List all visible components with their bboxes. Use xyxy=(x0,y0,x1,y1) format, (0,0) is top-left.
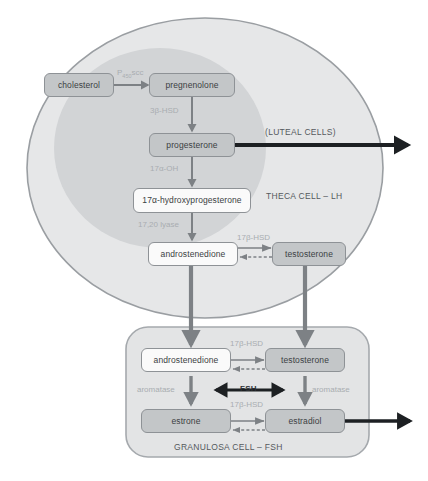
node-cholesterol-label: cholesterol xyxy=(58,81,100,90)
enzyme-label-17b-hsd-theca: 17β-HSD xyxy=(237,234,270,242)
diagram-canvas: cholesterol pregnenolone progesterone 17… xyxy=(0,0,428,481)
fsh-label: FSH xyxy=(240,385,257,393)
node-progesterone-label: progesterone xyxy=(166,141,217,150)
node-estrone[interactable]: estrone xyxy=(141,409,231,433)
enzyme-p450scc-tail: scc xyxy=(132,68,144,77)
enzyme-label-aromatase-right: aromatase xyxy=(312,386,350,394)
node-estradiol[interactable]: estradiol xyxy=(265,409,345,433)
node-testosterone-granulosa-label: testosterone xyxy=(281,356,329,365)
node-testosterone-granulosa[interactable]: testosterone xyxy=(265,348,345,372)
node-pregnenolone[interactable]: pregnenolone xyxy=(149,73,235,97)
node-cholesterol[interactable]: cholesterol xyxy=(44,73,114,97)
enzyme-label-17-20-lyase: 17,20 lyase xyxy=(138,221,179,229)
node-estrone-label: estrone xyxy=(171,417,200,426)
luteal-cells-label: (LUTEAL CELLS) xyxy=(265,128,336,137)
enzyme-label-3b-hsd: 3β-HSD xyxy=(150,107,179,115)
node-progesterone[interactable]: progesterone xyxy=(149,133,235,157)
node-androstenedione-granulosa[interactable]: androstenedione xyxy=(141,348,231,372)
node-androstenedione-theca[interactable]: androstenedione xyxy=(148,242,238,266)
node-hydroxyprogesterone-label: 17α-hydroxyprogesterone xyxy=(142,196,241,205)
enzyme-label-17b-hsd-granulosa-top: 17β-HSD xyxy=(230,340,263,348)
node-androstenedione-theca-label: androstenedione xyxy=(161,250,226,259)
enzyme-p450scc-sub: 450 xyxy=(122,73,131,79)
node-hydroxyprogesterone[interactable]: 17α-hydroxyprogesterone xyxy=(133,188,251,213)
node-testosterone-theca[interactable]: testosterone xyxy=(272,242,346,266)
enzyme-label-17b-hsd-granulosa-bottom: 17β-HSD xyxy=(230,401,263,409)
node-pregnenolone-label: pregnenolone xyxy=(165,81,218,90)
node-testosterone-theca-label: testosterone xyxy=(285,250,333,259)
enzyme-label-p450scc: P450scc xyxy=(117,69,144,79)
theca-cell-label: THECA CELL – LH xyxy=(266,192,342,201)
node-estradiol-label: estradiol xyxy=(288,417,321,426)
enzyme-label-aromatase-left: aromatase xyxy=(137,386,175,394)
node-androstenedione-granulosa-label: androstenedione xyxy=(154,356,219,365)
granulosa-cell-label: GRANULOSA CELL – FSH xyxy=(174,443,283,452)
enzyme-label-17a-oh: 17α-OH xyxy=(150,165,178,173)
